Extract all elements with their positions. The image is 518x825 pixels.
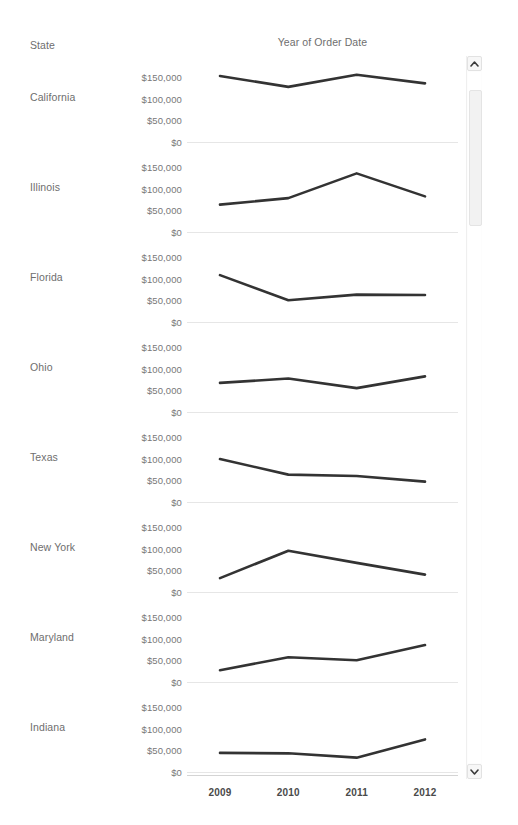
panel-row-label: Florida: [30, 271, 130, 283]
panel-row: Indiana$150,000$100,000$50,000$0: [0, 682, 462, 772]
panel-row: Ohio$150,000$100,000$50,000$0: [0, 322, 462, 412]
x-axis-tick: 2009: [208, 787, 231, 798]
scroll-down-button[interactable]: [467, 764, 482, 779]
y-axis-tick: $50,000: [147, 115, 182, 126]
panel-row: New York$150,000$100,000$50,000$0: [0, 502, 462, 592]
y-axis-tick-labels: $150,000$100,000$50,000$0: [120, 322, 182, 412]
scroll-up-button[interactable]: [467, 56, 482, 71]
y-axis-tick-labels: $150,000$100,000$50,000$0: [120, 682, 182, 772]
y-axis-tick: $150,000: [142, 701, 182, 712]
vertical-scrollbar[interactable]: [466, 56, 482, 779]
y-axis-tick-labels: $150,000$100,000$50,000$0: [120, 502, 182, 592]
panel-row: Illinois$150,000$100,000$50,000$0: [0, 142, 462, 232]
chevron-up-icon: [470, 61, 479, 67]
scrollbar-thumb[interactable]: [469, 90, 482, 226]
row-field-header: State: [30, 39, 55, 51]
y-axis-tick: $0: [171, 767, 182, 778]
panel-plot[interactable]: [187, 232, 458, 322]
panel-row-label: Maryland: [30, 631, 130, 643]
y-axis-tick: $50,000: [147, 295, 182, 306]
y-axis-tick: $150,000: [142, 431, 182, 442]
panel-row-label: California: [30, 91, 130, 103]
y-axis-tick: $50,000: [147, 385, 182, 396]
panel-plot[interactable]: [187, 682, 458, 772]
scrollbar-track[interactable]: [468, 72, 481, 763]
y-axis-tick: $150,000: [142, 521, 182, 532]
panel-row: California$150,000$100,000$50,000$0: [0, 52, 462, 142]
x-axis-tick: 2011: [345, 787, 368, 798]
panel-row: Maryland$150,000$100,000$50,000$0: [0, 592, 462, 682]
y-axis-tick: $100,000: [142, 633, 182, 644]
y-axis-tick-labels: $150,000$100,000$50,000$0: [120, 142, 182, 232]
y-axis-tick-labels: $150,000$100,000$50,000$0: [120, 52, 182, 142]
panel-plot[interactable]: [187, 142, 458, 232]
y-axis-tick: $150,000: [142, 251, 182, 262]
small-multiples-line-chart: State Year of Order Date California$150,…: [0, 0, 518, 825]
panel-row: Texas$150,000$100,000$50,000$0: [0, 412, 462, 502]
panel-row-label: Indiana: [30, 721, 130, 733]
panel-row-label: Texas: [30, 451, 130, 463]
y-axis-tick: $50,000: [147, 565, 182, 576]
y-axis-tick: $150,000: [142, 611, 182, 622]
panel-plot[interactable]: [187, 592, 458, 682]
panel-row-label: Ohio: [30, 361, 130, 373]
panel-plot[interactable]: [187, 502, 458, 592]
y-axis-tick: $100,000: [142, 543, 182, 554]
chart-title: Year of Order Date: [187, 36, 458, 48]
y-axis-tick-labels: $150,000$100,000$50,000$0: [120, 232, 182, 322]
y-axis-tick-labels: $150,000$100,000$50,000$0: [120, 592, 182, 682]
y-axis-tick: $50,000: [147, 745, 182, 756]
panel-plot[interactable]: [187, 412, 458, 502]
y-axis-tick: $100,000: [142, 183, 182, 194]
y-axis-tick: $150,000: [142, 71, 182, 82]
y-axis-tick: $50,000: [147, 655, 182, 666]
y-axis-tick-labels: $150,000$100,000$50,000$0: [120, 412, 182, 502]
y-axis-tick: $100,000: [142, 453, 182, 464]
y-axis-tick: $100,000: [142, 93, 182, 104]
x-axis-tick: 2010: [277, 787, 300, 798]
y-axis-tick: $150,000: [142, 341, 182, 352]
y-axis-tick: $100,000: [142, 723, 182, 734]
y-axis-tick: $100,000: [142, 363, 182, 374]
y-axis-tick: $50,000: [147, 475, 182, 486]
y-axis-tick: $50,000: [147, 205, 182, 216]
panel-row-label: New York: [30, 541, 130, 553]
y-axis-tick: $100,000: [142, 273, 182, 284]
panel-plot[interactable]: [187, 52, 458, 142]
chevron-down-icon: [470, 769, 479, 775]
panel-row-label: Illinois: [30, 181, 130, 193]
panel-row: Florida$150,000$100,000$50,000$0: [0, 232, 462, 322]
y-axis-tick: $150,000: [142, 161, 182, 172]
x-axis-tick: 2012: [413, 787, 436, 798]
x-axis-line: [187, 775, 458, 776]
zero-gridline: [187, 772, 458, 773]
panel-plot[interactable]: [187, 322, 458, 412]
